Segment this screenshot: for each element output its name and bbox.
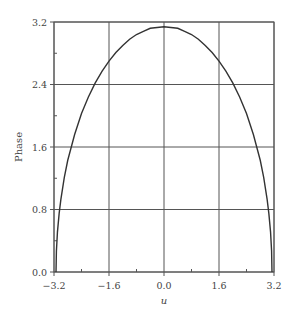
x-axis-tick-labels: −3.2−1.60.01.63.2 [42, 280, 281, 291]
x-tick-label: −3.2 [42, 280, 65, 291]
x-axis-label: u [161, 295, 167, 306]
x-tick-label: 0.0 [156, 280, 171, 291]
y-tick-label: 2.4 [32, 79, 47, 90]
y-axis-label: Phase [13, 132, 24, 162]
minor-ticks [54, 53, 247, 272]
y-tick-label: 3.2 [32, 17, 47, 28]
grid-lines [50, 22, 274, 276]
y-tick-label: 0.8 [32, 204, 47, 215]
x-tick-label: −1.6 [97, 280, 120, 291]
x-tick-label: 1.6 [211, 280, 226, 291]
phase-chart: 0.00.81.62.43.2 −3.2−1.60.01.63.2 Phase … [0, 0, 293, 325]
y-tick-label: 0.0 [32, 267, 47, 278]
x-tick-label: 3.2 [266, 280, 281, 291]
y-tick-label: 1.6 [32, 142, 47, 153]
y-axis-tick-labels: 0.00.81.62.43.2 [32, 17, 47, 278]
